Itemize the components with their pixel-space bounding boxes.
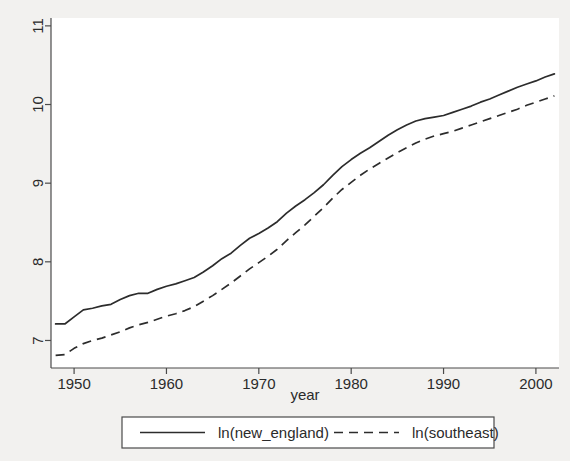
x-tick-label: 1970 bbox=[242, 375, 275, 392]
plot-area-background bbox=[51, 18, 559, 368]
x-axis-title: year bbox=[290, 386, 319, 403]
x-tick-label: 1980 bbox=[334, 375, 367, 392]
x-tick-label: 1950 bbox=[57, 375, 90, 392]
legend-label-southeast: ln(southeast) bbox=[412, 424, 499, 441]
line-chart: 7891011 195019601970198019902000 year ln… bbox=[0, 0, 570, 461]
y-tick-label: 11 bbox=[29, 18, 46, 34]
y-tick-label: 8 bbox=[30, 258, 47, 266]
x-tick-label: 1960 bbox=[150, 375, 183, 392]
y-tick-label: 10 bbox=[30, 96, 47, 113]
x-tick-label: 2000 bbox=[519, 375, 552, 392]
chart-figure: 7891011 195019601970198019902000 year ln… bbox=[0, 0, 570, 461]
legend-label-new-england: ln(new_england) bbox=[218, 424, 329, 441]
y-axis-ticks: 7891011 bbox=[29, 18, 51, 345]
y-tick-label: 7 bbox=[30, 336, 47, 344]
y-tick-label: 9 bbox=[30, 179, 47, 187]
x-tick-label: 1990 bbox=[427, 375, 460, 392]
chart-legend[interactable]: ln(new_england) ln(southeast) bbox=[122, 417, 499, 448]
